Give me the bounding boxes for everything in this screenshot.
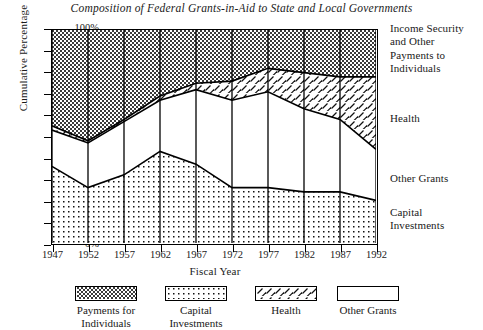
legend-item[interactable]: CapitalInvestments <box>146 286 246 329</box>
callout-line: Capital <box>390 206 444 219</box>
x-tick-mark <box>161 245 162 252</box>
chart-title: Composition of Federal Grants-in-Aid to … <box>0 2 483 14</box>
legend-label: Individuals <box>56 317 156 330</box>
legend-item[interactable]: Payments forIndividuals <box>56 286 156 329</box>
x-tick-mark <box>53 245 54 252</box>
plot-area <box>51 29 378 245</box>
legend-swatch-fine-dots <box>165 286 227 301</box>
legend-label: Payments for <box>56 304 156 317</box>
capital-investments-callout: CapitalInvestments <box>390 206 444 233</box>
callout-line: Other Grants <box>390 172 448 185</box>
x-tick-mark <box>269 245 270 252</box>
health-callout: Health <box>390 112 420 125</box>
y-axis-label: Cumulative Percentage <box>17 0 29 123</box>
y-tick-mark <box>44 159 51 160</box>
x-tick-mark <box>197 245 198 252</box>
y-tick-mark <box>44 180 51 181</box>
x-tick-mark <box>305 245 306 252</box>
x-tick-mark <box>233 245 234 252</box>
x-tick-mark <box>125 245 126 252</box>
y-tick-mark <box>44 115 51 116</box>
callout-line: Payments to <box>390 49 464 62</box>
y-tick-mark <box>44 202 51 203</box>
legend-label: Other Grants <box>318 304 418 317</box>
callout-line: and Other <box>390 35 464 48</box>
callout-line: Income Security <box>390 22 464 35</box>
chart-root: Composition of Federal Grants-in-Aid to … <box>0 0 483 330</box>
callout-line: Investments <box>390 219 444 232</box>
stacked-area-plot <box>52 30 376 243</box>
x-tick-mark <box>89 245 90 252</box>
x-tick-mark <box>341 245 342 252</box>
legend-swatch-solid-white <box>337 286 399 301</box>
chart-legend: Payments forIndividualsCapitalInvestment… <box>0 286 483 330</box>
legend-swatch-dense-stipple <box>75 286 137 301</box>
income-security-callout: Income Securityand OtherPayments toIndiv… <box>390 22 464 76</box>
y-tick-mark <box>44 29 51 30</box>
y-tick-mark <box>44 94 51 95</box>
legend-label: Investments <box>146 317 246 330</box>
legend-swatch-diagonal-dashes <box>255 286 317 301</box>
callout-line: Individuals <box>390 62 464 75</box>
x-tick-mark <box>377 245 378 252</box>
callout-line: Health <box>390 112 420 125</box>
y-tick-mark <box>44 51 51 52</box>
legend-item[interactable]: Other Grants <box>318 286 418 317</box>
x-axis-label: Fiscal Year <box>0 265 430 277</box>
other-grants-callout: Other Grants <box>390 172 448 185</box>
y-tick-mark <box>44 137 51 138</box>
y-tick-mark <box>44 223 51 224</box>
y-tick-mark <box>44 72 51 73</box>
y-tick-mark <box>44 245 51 246</box>
legend-label: Capital <box>146 304 246 317</box>
